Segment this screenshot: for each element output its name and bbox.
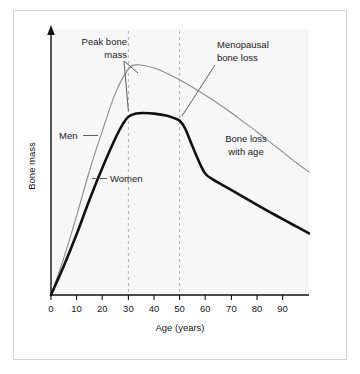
menopausal-bone-loss-line-1: Menopausal (217, 39, 269, 50)
xtick-label-10: 10 (71, 303, 82, 314)
xtick-label-80: 80 (252, 303, 263, 314)
women-label-text: Women (110, 173, 143, 184)
men-label-text: Men (59, 130, 77, 141)
x-axis: 0 10 20 30 40 50 60 70 80 90 Age (years) (48, 295, 309, 333)
xtick-label-90: 90 (277, 303, 288, 314)
xtick-label-30: 30 (123, 303, 134, 314)
xtick-label-40: 40 (149, 303, 160, 314)
xtick-label-70: 70 (226, 303, 237, 314)
xtick-label-20: 20 (97, 303, 108, 314)
x-axis-title: Age (years) (155, 322, 204, 333)
menopausal-bone-loss-line-2: bone loss (217, 52, 258, 63)
y-axis-title: Bone mass (26, 142, 37, 190)
bone-loss-with-age-line-1: Bone loss (225, 133, 267, 144)
bone-loss-with-age-line-2: with age (227, 146, 263, 157)
xtick-label-50: 50 (174, 303, 185, 314)
x-axis-tick-labels: 0 10 20 30 40 50 60 70 80 90 (48, 303, 288, 314)
peak-bone-mass-line-2: mass (104, 49, 127, 60)
xtick-label-60: 60 (200, 303, 211, 314)
xtick-label-0: 0 (48, 303, 53, 314)
x-axis-ticks (51, 295, 283, 300)
figure-frame: 0 10 20 30 40 50 60 70 80 90 Age (years)… (13, 10, 347, 360)
peak-bone-mass-line-1: Peak bone (82, 36, 127, 47)
bone-mass-chart: 0 10 20 30 40 50 60 70 80 90 Age (years)… (14, 11, 346, 359)
